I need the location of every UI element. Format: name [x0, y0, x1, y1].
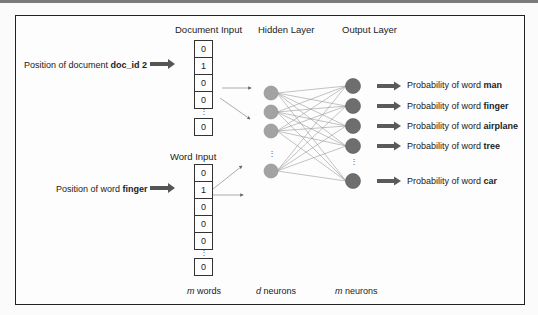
output-ellipsis: ⋮ — [350, 158, 358, 166]
footer-input: m words — [187, 286, 221, 296]
footer-hidden: d neurons — [256, 286, 296, 296]
word-cell: 0 — [194, 164, 213, 182]
doc-cell: 0 — [194, 40, 213, 58]
output-label-tree: Probability of word tree — [407, 141, 500, 151]
document-arrow-icon — [150, 59, 175, 69]
word-cell: 1 — [194, 181, 213, 199]
output-label-car: Probability of word car — [407, 176, 497, 186]
output-label-man: Probability of word man — [407, 80, 502, 90]
ellipsis: ⋮ — [200, 108, 208, 116]
output-label-finger: Probability of word finger — [407, 101, 509, 111]
ellipsis: ⋮ — [200, 249, 208, 257]
word-arrow-icon — [150, 183, 175, 193]
footer-output: m neurons — [335, 286, 378, 296]
output-label-airplane: Probability of word airplane — [407, 121, 518, 131]
doc-cell: 0 — [194, 74, 213, 92]
doc-cell: 1 — [194, 57, 213, 75]
word-cell: 0 — [194, 258, 213, 276]
hidden-ellipsis: ⋮ — [268, 150, 276, 158]
word-cell: 0 — [194, 198, 213, 216]
word-cell: 0 — [194, 215, 213, 233]
doc-cell: 0 — [194, 118, 213, 136]
